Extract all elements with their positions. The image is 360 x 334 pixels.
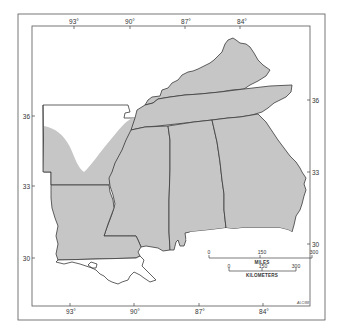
scale-miles-300: 300 xyxy=(310,249,319,255)
bottom-tick-87: 87° xyxy=(195,308,205,315)
left-tick-36: 36 xyxy=(23,113,31,120)
right-tick-36: 36 xyxy=(312,97,320,104)
bottom-tick-84: 84° xyxy=(259,308,269,315)
state-georgia xyxy=(212,114,306,232)
right-tick-30: 30 xyxy=(312,241,320,248)
scale-bar: 0 150 300 MILES 0 150 300 KILOMETERS xyxy=(208,249,319,278)
scale-miles-150: 150 xyxy=(258,249,267,255)
bottom-longitude-ticks: 93° 90° 87° 84° xyxy=(66,303,269,315)
louisiana-coastline xyxy=(56,256,156,284)
scale-km-150: 150 xyxy=(259,263,268,269)
top-longitude-ticks: 93° 90° 87° 84° xyxy=(69,18,247,29)
map-figure: 93° 90° 87° 84° 93° 90° 87° 84° 36 33 30… xyxy=(0,0,360,334)
left-latitude-ticks: 36 33 30 xyxy=(23,113,35,262)
bottom-tick-93: 93° xyxy=(66,308,76,315)
scale-miles-0: 0 xyxy=(208,249,211,255)
bottom-tick-90: 90° xyxy=(130,308,140,315)
left-tick-33: 33 xyxy=(23,183,31,190)
right-tick-33: 33 xyxy=(312,169,320,176)
scale-km-0: 0 xyxy=(228,263,231,269)
right-latitude-ticks: 36 33 30 xyxy=(307,97,320,248)
credit-label: ALC/88 xyxy=(296,301,309,305)
top-tick-84: 84° xyxy=(237,18,247,25)
top-tick-90: 90° xyxy=(125,18,135,25)
scale-km-300: 300 xyxy=(292,263,301,269)
top-tick-87: 87° xyxy=(181,18,191,25)
scale-km-label: KILOMETERS xyxy=(246,273,278,278)
top-tick-93: 93° xyxy=(69,18,79,25)
left-tick-30: 30 xyxy=(23,255,31,262)
